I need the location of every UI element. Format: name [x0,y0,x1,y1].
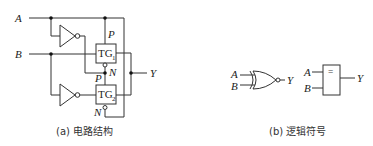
tg1-n-label: N [108,66,117,78]
wire-a-to-inv1 [51,18,60,36]
caption-b: (b) 逻辑符号 [269,125,326,137]
junction-dot [49,52,53,56]
iec-function-label: = [328,66,333,76]
iec-output-y-label: Y [357,72,365,84]
iec-input-b-label: B [304,82,311,94]
junction-dot [103,16,107,20]
tg2-subscript: 2 [112,95,116,103]
logic-symbols: A B Y A B = Y (b) 逻辑符号 [230,65,365,137]
tg2-n-label: N [93,106,102,118]
inverter-1 [60,25,80,47]
xnor-input-a-label: A [230,68,238,80]
xnor-output-y-label: Y [287,74,295,86]
output-y-label: Y [150,67,158,79]
circuit-structure: A B TG 1 P N [14,12,158,137]
xnor-input-b-label: B [231,80,238,92]
caption-a: (a) 电路结构 [56,125,113,137]
input-b-label: B [15,48,22,60]
figure-canvas: A B TG 1 P N [0,0,373,146]
tg1-p-label: P [107,28,115,40]
wire-b-to-inv2 [51,54,60,95]
junction-dot [129,71,133,75]
tg2-label: TG [98,88,113,100]
tg1-label: TG [98,47,113,59]
xnor-gate-symbol: A B Y [230,68,295,92]
tg1-subscript: 1 [112,54,116,62]
iec-xnor-symbol: A B = Y [303,65,365,95]
junction-dot [103,71,107,75]
tg2-p-label: P [94,72,102,84]
inverter-2 [60,84,80,106]
transmission-gate-1: TG 1 P N [96,28,117,78]
iec-input-a-label: A [303,66,311,78]
junction-dot [49,16,53,20]
input-a-label: A [14,12,22,24]
